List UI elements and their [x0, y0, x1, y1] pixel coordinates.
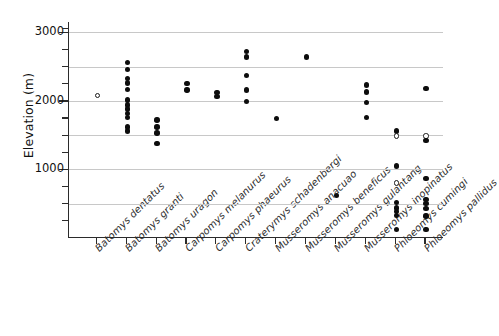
data-point	[423, 213, 428, 218]
gridline-1000	[69, 169, 443, 170]
data-point	[274, 116, 279, 121]
y-tick-label-2000: 2000	[35, 93, 64, 107]
data-point	[125, 115, 130, 120]
data-point	[95, 93, 100, 98]
data-point	[364, 100, 369, 105]
data-point	[394, 227, 399, 232]
data-point	[364, 115, 369, 120]
data-point	[423, 227, 428, 232]
y-tick-label-1000: 1000	[35, 161, 64, 175]
data-point	[184, 81, 189, 86]
data-point	[125, 87, 130, 92]
data-point	[244, 99, 249, 104]
data-point	[423, 176, 428, 181]
data-point	[154, 124, 159, 129]
gridline-3000	[69, 32, 443, 33]
data-point	[304, 54, 309, 59]
data-point	[154, 141, 159, 146]
data-point	[125, 128, 130, 133]
data-point	[423, 138, 428, 143]
data-point	[244, 54, 249, 59]
data-point	[184, 87, 189, 92]
data-point	[154, 117, 159, 122]
plot-area	[68, 22, 443, 238]
data-point	[214, 94, 219, 99]
data-point	[394, 180, 399, 185]
data-point	[423, 206, 428, 211]
data-point	[394, 213, 399, 218]
data-point	[394, 133, 399, 138]
data-point	[244, 73, 249, 78]
data-point	[154, 130, 159, 135]
data-point	[364, 89, 369, 94]
data-point	[244, 87, 249, 92]
data-point	[394, 163, 399, 168]
gridline-1500	[69, 135, 443, 136]
data-point	[334, 193, 339, 198]
data-point	[125, 80, 130, 85]
y-axis-title: Elevation (m)	[21, 26, 36, 206]
data-point	[125, 67, 130, 72]
y-tick-label-3000: 3000	[35, 24, 64, 38]
gridline-500	[69, 204, 443, 205]
data-point	[423, 86, 428, 91]
data-point	[364, 82, 369, 87]
data-point	[125, 60, 130, 65]
